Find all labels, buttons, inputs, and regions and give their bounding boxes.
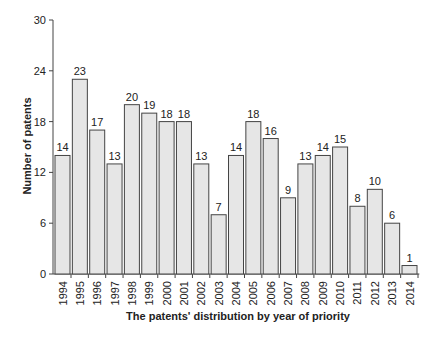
bar (194, 164, 209, 274)
bar-value-label: 15 (334, 133, 346, 145)
bar-value-label: 17 (91, 116, 103, 128)
y-tick-label: 30 (34, 14, 46, 26)
bar (229, 155, 244, 274)
bar (315, 155, 330, 274)
x-tick-label: 2013 (386, 281, 398, 305)
bar (124, 105, 139, 274)
x-tick-label: 1995 (74, 281, 86, 305)
bar (350, 206, 365, 274)
bar (385, 223, 400, 274)
bar-value-label: 14 (230, 141, 242, 153)
bar-value-label: 9 (285, 184, 291, 196)
x-tick-label: 2006 (265, 281, 277, 305)
bar-value-label: 18 (160, 108, 172, 120)
bar-value-label: 6 (389, 209, 395, 221)
bar-value-label: 13 (299, 150, 311, 162)
bar-value-label: 8 (354, 192, 360, 204)
x-tick-label: 1998 (126, 281, 138, 305)
y-tick-label: 12 (34, 166, 46, 178)
y-tick-label: 6 (40, 217, 46, 229)
y-tick-label: 24 (34, 65, 46, 77)
bar (142, 113, 157, 274)
bar-value-label: 14 (317, 141, 329, 153)
x-tick-label: 2014 (404, 281, 416, 305)
bar-value-label: 16 (265, 125, 277, 137)
x-tick-label: 2008 (299, 281, 311, 305)
bar-value-label: 14 (56, 141, 68, 153)
bar-value-label: 18 (247, 108, 259, 120)
bar (298, 164, 313, 274)
bar (263, 139, 278, 274)
x-tick-label: 1996 (91, 281, 103, 305)
bar-value-label: 7 (216, 201, 222, 213)
x-tick-label: 2005 (247, 281, 259, 305)
bar (72, 79, 87, 274)
bar (402, 266, 417, 274)
y-tick-label: 0 (40, 268, 46, 280)
x-axis-label: The patents' distribution by year of pri… (53, 310, 423, 322)
x-tick-label: 2010 (334, 281, 346, 305)
bar-value-label: 1 (406, 252, 412, 264)
chart-plot: 0612182430141994231995171996131997201998… (0, 0, 437, 338)
x-tick-label: 1997 (109, 281, 121, 305)
y-axis-label: Number of patents (21, 81, 33, 211)
x-tick-label: 2011 (351, 281, 363, 305)
bar-value-label: 10 (369, 175, 381, 187)
bar (90, 130, 105, 274)
bar (211, 215, 226, 274)
bar (159, 122, 174, 274)
x-tick-label: 2012 (369, 281, 381, 305)
x-tick-label: 2002 (195, 281, 207, 305)
x-tick-label: 2009 (317, 281, 329, 305)
bar (246, 122, 261, 274)
bar-value-label: 20 (126, 91, 138, 103)
x-tick-label: 1994 (57, 281, 69, 305)
bar-value-label: 13 (108, 150, 120, 162)
bar (107, 164, 122, 274)
bar-value-label: 19 (143, 99, 155, 111)
bar (333, 147, 348, 274)
x-tick-label: 2004 (230, 281, 242, 305)
x-tick-label: 2003 (213, 281, 225, 305)
bar-value-label: 23 (74, 65, 86, 77)
x-tick-label: 2000 (161, 281, 173, 305)
bar (55, 155, 70, 274)
bar-value-label: 18 (178, 108, 190, 120)
x-tick-label: 2007 (282, 281, 294, 305)
x-tick-label: 2001 (178, 281, 190, 305)
y-tick-label: 18 (34, 116, 46, 128)
x-tick-label: 1999 (143, 281, 155, 305)
bar-value-label: 13 (195, 150, 207, 162)
bar (176, 122, 191, 274)
bar (367, 189, 382, 274)
bar (281, 198, 296, 274)
